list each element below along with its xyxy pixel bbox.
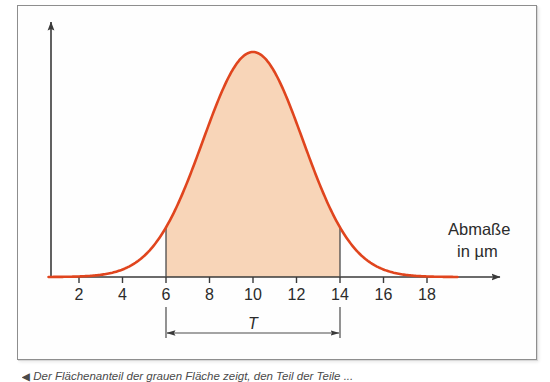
x-axis-tick-label: 16: [375, 286, 393, 303]
x-axis-tick-label: 12: [288, 286, 306, 303]
caption-marker-icon: ◀: [22, 371, 30, 382]
tolerance-label: T: [248, 315, 259, 332]
x-axis-tick-label: 2: [75, 286, 84, 303]
figure-root: 24681012141618 T Abmaße in µm ◀ Der Fläc…: [0, 0, 550, 382]
x-axis-tick-label: 14: [331, 286, 349, 303]
x-axis-tick-label: 4: [118, 286, 127, 303]
x-axis-label-line2: in µm: [457, 242, 498, 260]
x-axis-tick-label: 6: [162, 286, 171, 303]
tolerance-shaded-area: [49, 52, 458, 277]
x-axis-tick-labels: 24681012141618: [75, 286, 436, 303]
x-axis-tick-label: 10: [244, 286, 262, 303]
x-axis-tick-label: 8: [205, 286, 214, 303]
distribution-chart: 24681012141618 T Abmaße in µm: [0, 0, 550, 382]
x-axis-label-line1: Abmaße: [448, 220, 510, 238]
caption-body: Der Flächenanteil der grauen Fläche zeig…: [33, 370, 353, 382]
figure-caption: ◀ Der Flächenanteil der grauen Fläche ze…: [22, 370, 542, 382]
x-axis-tick-marks: [79, 277, 427, 283]
x-axis-tick-label: 18: [418, 286, 436, 303]
